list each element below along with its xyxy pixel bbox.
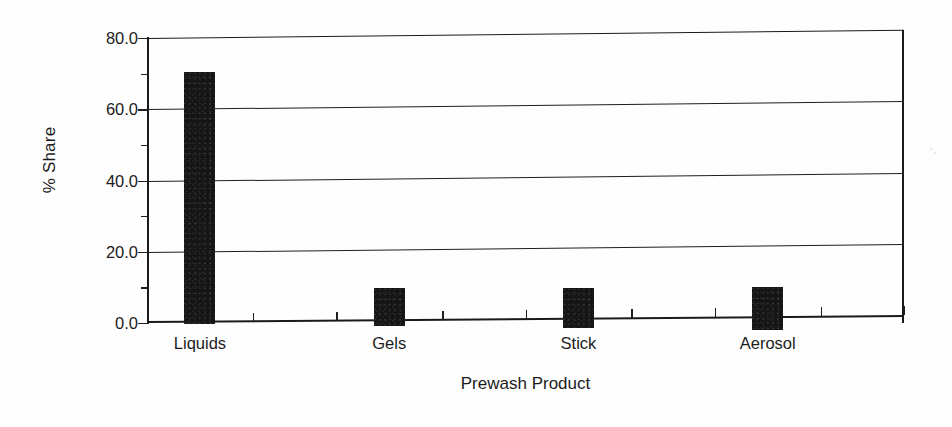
y-axis-tick-labels: 0.020.040.060.080.0: [78, 38, 138, 323]
x-axis-tick: [526, 310, 527, 319]
x-axis-tick-label: Liquids: [174, 334, 226, 353]
y-axis-tick-minor: [141, 74, 147, 75]
x-axis-ticks: [147, 314, 904, 326]
bar-chart-figure: % Share 0.020.040.060.080.0 LiquidsGelsS…: [0, 0, 952, 427]
y-axis-title: % Share: [40, 80, 60, 240]
gridline: [147, 173, 904, 182]
plot-area: [147, 38, 904, 323]
x-axis-tick: [147, 314, 148, 323]
plot-frame-right: [902, 30, 904, 323]
x-axis-tick: [336, 312, 337, 321]
x-axis-title: Prewash Product: [147, 374, 904, 394]
bar: [184, 72, 215, 324]
y-axis-tick-label: 0.0: [82, 315, 138, 332]
scan-speckle: [930, 148, 932, 150]
y-axis-tick-minor: [141, 216, 147, 217]
y-axis-tick-minor: [141, 145, 147, 146]
x-axis-tick-labels: LiquidsGelsStickAerosol: [147, 334, 904, 360]
y-axis-tick-major: [138, 38, 147, 39]
y-axis-tick-label: 40.0: [82, 173, 138, 190]
y-axis-tick-major: [138, 252, 147, 253]
plot-frame-top: [147, 30, 904, 40]
y-axis-tick-label: 20.0: [82, 244, 138, 261]
y-axis-tick-major: [138, 323, 147, 324]
y-axis-tick-major: [138, 181, 147, 182]
x-axis-tick-label: Aerosol: [740, 334, 796, 353]
y-axis-tick-major: [138, 109, 147, 110]
gridline: [147, 244, 904, 253]
x-axis-tick: [821, 307, 822, 316]
x-axis-tick-label: Stick: [561, 334, 597, 353]
x-axis-tick: [442, 311, 443, 320]
gridline: [147, 101, 904, 110]
x-axis-tick: [715, 308, 716, 317]
x-axis-tick: [253, 313, 254, 322]
y-axis-tick-label: 80.0: [82, 30, 138, 47]
scan-speckle: [934, 152, 936, 154]
x-axis-tick: [631, 309, 632, 318]
y-axis-tick-minor: [141, 287, 147, 288]
x-axis-tick: [904, 306, 905, 315]
x-axis-tick-label: Gels: [372, 334, 406, 353]
y-axis-tick-label: 60.0: [82, 101, 138, 118]
